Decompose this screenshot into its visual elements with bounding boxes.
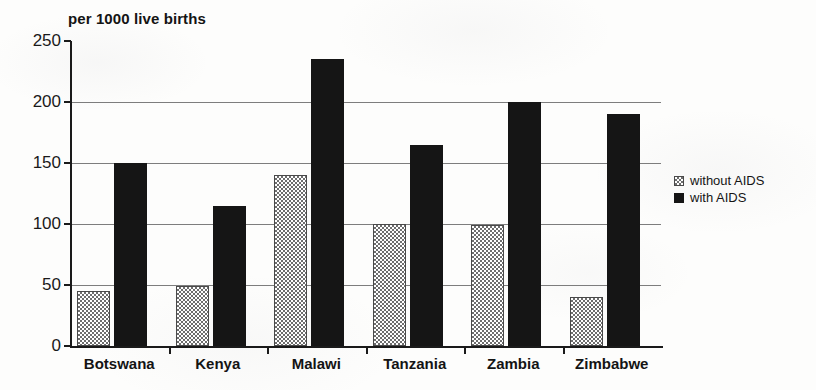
x-axis-category-label: Zambia (487, 355, 540, 372)
bar (607, 114, 640, 346)
x-axis-category-label: Zimbabwe (575, 355, 648, 372)
x-axis-category-label: Tanzania (383, 355, 446, 372)
bar-group (70, 41, 169, 346)
legend-item-label: without AIDS (690, 174, 764, 187)
x-axis-category-label: Kenya (195, 355, 240, 372)
legend-item[interactable]: without AIDS (674, 172, 764, 189)
y-axis-tick-label: 200 (33, 92, 61, 112)
y-axis-tick-label: 50 (42, 275, 61, 295)
x-axis-tick (464, 346, 466, 354)
x-axis-tick (169, 346, 171, 354)
legend-item-label: with AIDS (690, 191, 746, 204)
bar (213, 206, 246, 346)
bar (570, 297, 603, 346)
x-axis-category-label: Botswana (84, 355, 155, 372)
bar (471, 225, 504, 346)
legend-item[interactable]: with AIDS (674, 189, 764, 206)
bar-group (169, 41, 268, 346)
bar (508, 102, 541, 346)
stipple-swatch-icon (674, 176, 684, 186)
bar (410, 145, 443, 346)
y-axis-tick-label: 0 (52, 336, 61, 356)
bar-group (464, 41, 563, 346)
x-axis-tick (563, 346, 565, 354)
y-axis-tick-label: 100 (33, 214, 61, 234)
bar (176, 286, 209, 346)
y-axis-tick-label: 250 (33, 31, 61, 51)
bar-group (366, 41, 465, 346)
bar (373, 224, 406, 346)
x-axis-tick (366, 346, 368, 354)
chart-title: per 1000 live births (68, 10, 206, 27)
x-axis-tick (267, 346, 269, 354)
bar-group (267, 41, 366, 346)
y-axis-line (70, 41, 72, 347)
solid-swatch-icon (674, 193, 684, 203)
plot-area: 050100150200250 (70, 41, 661, 346)
bar (311, 59, 344, 346)
bar (114, 163, 147, 346)
bar (77, 291, 110, 346)
y-axis-tick-label: 150 (33, 153, 61, 173)
x-axis-category-label: Malawi (292, 355, 341, 372)
bar-chart-figure: per 1000 live births 050100150200250 Bot… (0, 0, 816, 390)
chart-legend: without AIDSwith AIDS (674, 172, 764, 206)
bar (274, 175, 307, 346)
bar-group (563, 41, 662, 346)
